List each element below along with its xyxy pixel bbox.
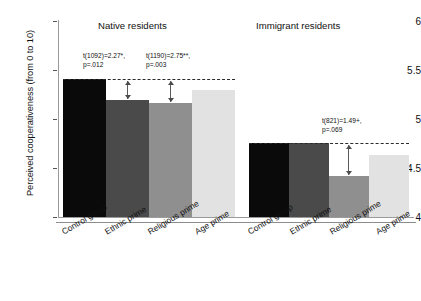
annotation-native-ethnic-pvalue: p=.012 <box>83 61 125 70</box>
bar-native-ethnic-prime <box>106 100 149 217</box>
y-tickmark-3 <box>53 70 57 71</box>
bar-native-age-prime <box>192 90 235 217</box>
y-tick-2: 5 <box>395 114 421 125</box>
y-axis-line <box>58 20 59 217</box>
annotation-native-religious: t(1190)=2.75**, p=.003 <box>146 52 190 70</box>
panel-title-native: Native residents <box>98 20 167 31</box>
y-tick-3: 5.5 <box>395 65 421 76</box>
y-tickmark-4 <box>53 21 57 22</box>
significance-arrow-immigrant-religious <box>348 145 349 175</box>
annotation-native-ethnic-stat: t(1092)=2.27*, <box>83 52 125 61</box>
panel-title-immigrant: Immigrant residents <box>256 20 340 31</box>
bar-native-religious-prime <box>149 103 192 217</box>
significance-arrow-native-ethnic <box>127 81 128 99</box>
annotation-native-ethnic: t(1092)=2.27*, p=.012 <box>83 52 125 70</box>
annotation-immigrant-religious-stat: t(821)=1.49+, <box>322 117 362 126</box>
y-tick-4: 6 <box>395 16 421 27</box>
reference-line-immigrant <box>249 143 409 144</box>
annotation-immigrant-religious-pvalue: p=.069 <box>322 126 362 135</box>
y-tickmark-2 <box>53 119 57 120</box>
bar-chart: Perceived cooperativeness (from 0 to 10)… <box>0 0 421 301</box>
significance-arrow-native-religious <box>170 81 171 102</box>
y-axis-label: Perceived cooperativeness (from 0 to 10) <box>25 0 35 228</box>
annotation-native-religious-stat: t(1190)=2.75**, <box>146 52 190 61</box>
y-tickmark-0 <box>53 217 57 218</box>
reference-line-native <box>63 79 235 80</box>
y-tickmark-1 <box>53 168 57 169</box>
annotation-native-religious-pvalue: p=.003 <box>146 61 190 70</box>
annotation-immigrant-religious: t(821)=1.49+, p=.069 <box>322 117 362 135</box>
bar-native-control-group <box>63 79 106 217</box>
